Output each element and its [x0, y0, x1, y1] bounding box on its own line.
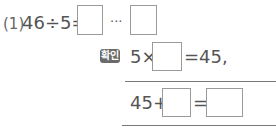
- remainder-answer-box[interactable]: [130, 5, 157, 35]
- check-badge: 확인: [100, 49, 120, 63]
- divider-line-1: [125, 81, 276, 82]
- remainder-ellipsis: ···: [110, 12, 122, 32]
- remainder-addend-box[interactable]: [162, 88, 191, 117]
- divider-line-2: [122, 125, 276, 126]
- quotient-answer-box[interactable]: [77, 5, 103, 35]
- divisor-multiplier-box[interactable]: [152, 42, 182, 71]
- check-line1-suffix: =45,: [184, 47, 228, 67]
- dividend-result-box[interactable]: [206, 88, 243, 117]
